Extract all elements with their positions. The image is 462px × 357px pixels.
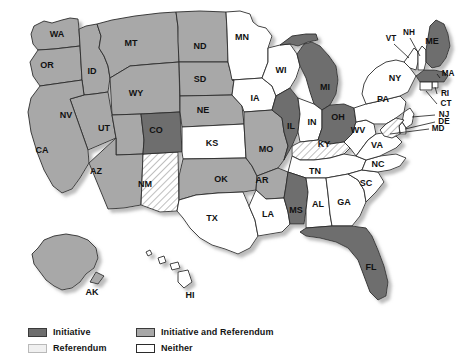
map-landmass-group xyxy=(28,11,450,300)
state-label-AZ: AZ xyxy=(90,166,102,176)
legend-row-1: Initiative Initiative and Referendum xyxy=(28,325,308,339)
state-label-UT: UT xyxy=(98,123,110,133)
state-label-MI: MI xyxy=(320,82,330,92)
legend-label-initiative-and-referendum: Initiative and Referendum xyxy=(161,327,274,337)
legend-swatch-initiative-and-referendum xyxy=(136,328,155,337)
legend-swatch-neither xyxy=(136,344,155,353)
state-label-WV: WV xyxy=(351,125,366,135)
state-label-MO: MO xyxy=(259,144,274,154)
leader-line-NJ xyxy=(412,115,435,117)
state-label-OK: OK xyxy=(214,174,228,184)
state-AK[interactable] xyxy=(32,234,104,290)
us-map-svg: WAORIDMTWYNVUTCAAZNDSDNEMOOKARAKCOILMIOH… xyxy=(0,0,462,357)
state-label-IN: IN xyxy=(308,117,317,127)
state-HI[interactable] xyxy=(146,250,192,288)
legend-swatch-initiative xyxy=(28,328,47,337)
state-label-KY: KY xyxy=(318,139,331,149)
state-label-WA: WA xyxy=(50,29,65,39)
state-label-ME: ME xyxy=(425,36,439,46)
state-label-TN: TN xyxy=(309,166,321,176)
legend-label-neither: Neither xyxy=(161,343,193,353)
state-label-NC: NC xyxy=(372,159,385,169)
legend-swatch-referendum xyxy=(28,344,47,353)
state-label-TX: TX xyxy=(206,213,218,223)
state-label-FL: FL xyxy=(366,262,377,272)
leader-line-CT xyxy=(426,91,437,104)
state-label-MT: MT xyxy=(125,38,138,48)
state-label-AL: AL xyxy=(312,199,324,209)
state-label-SC: SC xyxy=(360,178,373,188)
state-label-ND: ND xyxy=(194,41,207,51)
legend-item-initiative[interactable]: Initiative xyxy=(28,327,136,337)
state-label-HI: HI xyxy=(186,290,195,300)
state-label-AK: AK xyxy=(86,287,99,297)
state-label-PA: PA xyxy=(377,94,389,104)
state-label-CO: CO xyxy=(149,125,163,135)
state-label-VA: VA xyxy=(371,140,383,150)
state-label-MS: MS xyxy=(289,205,303,215)
us-map-figure: WAORIDMTWYNVUTCAAZNDSDNEMOOKARAKCOILMIOH… xyxy=(0,0,462,357)
legend-row-2: Referendum Neither xyxy=(28,341,308,355)
state-label-MA: MA xyxy=(442,69,455,78)
state-label-GA: GA xyxy=(337,197,351,207)
state-label-ID: ID xyxy=(88,66,98,76)
state-label-DE: DE xyxy=(438,117,450,126)
state-label-IA: IA xyxy=(251,93,261,103)
state-NE[interactable] xyxy=(180,95,244,127)
state-label-CT: CT xyxy=(441,99,452,108)
map-legend: Initiative Initiative and Referendum Ref… xyxy=(28,325,308,357)
state-OR[interactable] xyxy=(30,46,82,86)
state-label-KS: KS xyxy=(206,138,219,148)
legend-item-referendum[interactable]: Referendum xyxy=(28,343,136,353)
state-label-IL: IL xyxy=(287,121,296,131)
state-label-RI: RI xyxy=(441,89,449,98)
state-label-WY: WY xyxy=(129,88,144,98)
state-label-MN: MN xyxy=(235,32,249,42)
state-CT[interactable] xyxy=(420,82,432,90)
legend-item-initiative-and-referendum[interactable]: Initiative and Referendum xyxy=(136,327,274,337)
legend-label-referendum: Referendum xyxy=(53,343,107,353)
state-label-NM: NM xyxy=(138,179,152,189)
state-label-VT: VT xyxy=(386,34,396,43)
state-label-CA: CA xyxy=(36,145,49,155)
state-label-NV: NV xyxy=(60,110,73,120)
state-label-OR: OR xyxy=(40,60,54,70)
state-label-NE: NE xyxy=(197,105,210,115)
state-label-OH: OH xyxy=(331,112,345,122)
state-ND[interactable] xyxy=(176,11,228,62)
state-UT[interactable] xyxy=(112,114,144,155)
state-label-LA: LA xyxy=(262,209,274,219)
state-label-AR: AR xyxy=(256,175,269,185)
state-label-NY: NY xyxy=(389,73,402,83)
legend-label-initiative: Initiative xyxy=(53,327,91,337)
state-label-SD: SD xyxy=(194,74,207,84)
leader-line-VT xyxy=(394,44,409,58)
legend-item-neither[interactable]: Neither xyxy=(136,343,193,353)
state-SD[interactable] xyxy=(179,62,234,96)
state-label-NH: NH xyxy=(403,28,415,37)
state-label-WI: WI xyxy=(276,65,287,75)
state-NH[interactable] xyxy=(418,46,426,70)
